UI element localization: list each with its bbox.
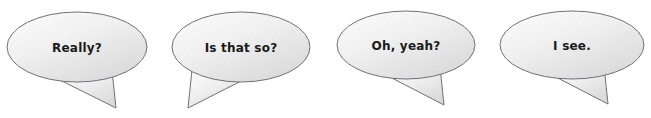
speech-bubble-diagram: Really? Is that so [0,0,651,118]
bubble-4-ellipse-shape [500,11,644,79]
bubble-3-ellipse-shape [337,11,475,79]
bubble-4-label: I see. [553,40,591,52]
bubble-3-label: Oh, yeah? [372,40,441,52]
speech-bubble-2: Is that so? [0,0,651,118]
bubble-1-ellipse-shape [7,12,147,82]
speech-bubble-3: Oh, yeah? [0,0,651,118]
bubble-2-ellipse-shape [172,12,310,82]
bubble-3-tail-shape [388,67,444,105]
bubble-4-tail-shape [552,66,608,104]
speech-bubble-4: I see. [0,0,651,118]
bubble-2-label: Is that so? [205,42,278,54]
bubble-1-label: Really? [52,42,102,54]
bubble-2-tail-shape [188,70,247,108]
bubble-1-tail-shape [58,70,116,108]
speech-bubble-1: Really? [0,0,651,118]
